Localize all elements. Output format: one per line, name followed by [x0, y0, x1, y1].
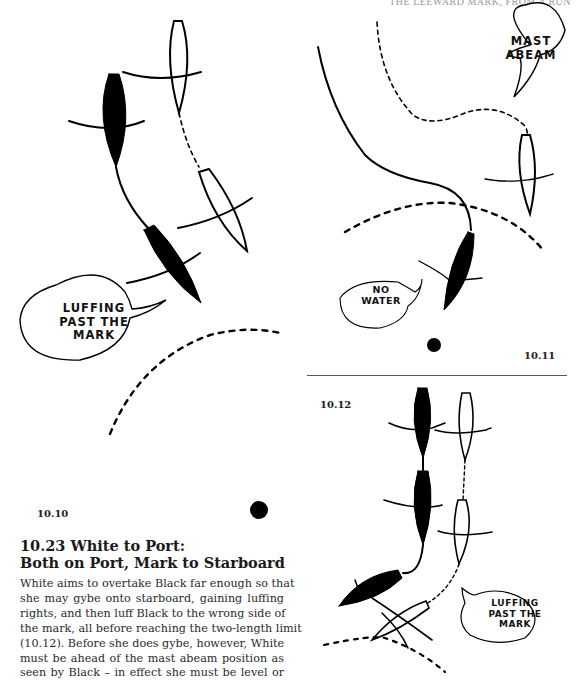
- bubble-line: MARK: [480, 619, 550, 630]
- white-boat-icon: [485, 135, 553, 214]
- speech-bubble-text: LUFFING PAST THE MARK: [38, 302, 150, 343]
- white-boat-icon: [123, 21, 201, 113]
- white-track-dashed: [426, 564, 459, 604]
- black-track: [318, 47, 471, 230]
- two-length-zone-dashed: [345, 203, 543, 250]
- black-track: [116, 167, 148, 228]
- white-boat-icon: [178, 169, 252, 251]
- section-heading: 10.23 White to Port: Both on Port, Mark …: [20, 537, 320, 571]
- black-boat-icon: [127, 225, 201, 303]
- figure-divider: [307, 375, 567, 376]
- body-line: must be ahead of the mast abeam position…: [20, 652, 284, 667]
- figure-label-10-10: 10.10: [37, 508, 68, 519]
- two-length-zone-dashed: [110, 330, 284, 434]
- body-line: White aims to overtake Black far enough …: [20, 577, 284, 592]
- bubble-line: ABEAM: [496, 49, 566, 63]
- bubble-line: PAST THE: [38, 316, 150, 330]
- figure-label-10-11: 10.11: [524, 350, 555, 361]
- speech-bubble-text: LUFFING PAST THE MARK: [480, 598, 550, 630]
- body-line: rights, and then luff Black to the wrong…: [20, 607, 284, 622]
- body-paragraph: White aims to overtake Black far enough …: [20, 577, 284, 681]
- black-boat-icon: [389, 388, 445, 458]
- bubble-line: LUFFING: [38, 302, 150, 316]
- bubble-line: WATER: [349, 295, 413, 306]
- white-track-dashed: [179, 113, 199, 167]
- black-track: [403, 545, 423, 573]
- figure-label-10-12: 10.12: [320, 399, 351, 410]
- body-line: the mark, all before reaching the two-le…: [20, 622, 284, 637]
- bubble-line: PAST THE: [480, 609, 550, 620]
- figure-10-10-diagram: [20, 21, 284, 434]
- mark-buoy-icon: [427, 338, 441, 352]
- two-length-zone-dashed: [324, 637, 445, 672]
- body-line: (10.12). Before she does gybe, however, …: [20, 637, 284, 652]
- section-heading-line: 10.23 White to Port:: [20, 537, 320, 554]
- body-line: seen by Black – in effect she must be le…: [20, 666, 284, 681]
- bubble-line: MAST: [496, 35, 566, 49]
- bubble-line: NO: [349, 284, 413, 295]
- black-boat-icon: [419, 232, 482, 310]
- bubble-line: MARK: [38, 329, 150, 343]
- bubble-line: LUFFING: [480, 598, 550, 609]
- section-heading-line: Both on Port, Mark to Starboard: [20, 554, 320, 571]
- black-boat-icon: [384, 471, 442, 545]
- white-boat-icon: [435, 393, 491, 460]
- white-boat-icon: [372, 601, 429, 648]
- black-boat-icon: [69, 74, 144, 167]
- speech-bubble-text: NO WATER: [349, 284, 413, 306]
- white-boat-icon: [438, 500, 492, 564]
- mark-buoy-icon: [250, 501, 268, 519]
- speech-bubble-text: MAST ABEAM: [496, 35, 566, 62]
- body-line: she may gybe onto starboard, gaining luf…: [20, 592, 284, 607]
